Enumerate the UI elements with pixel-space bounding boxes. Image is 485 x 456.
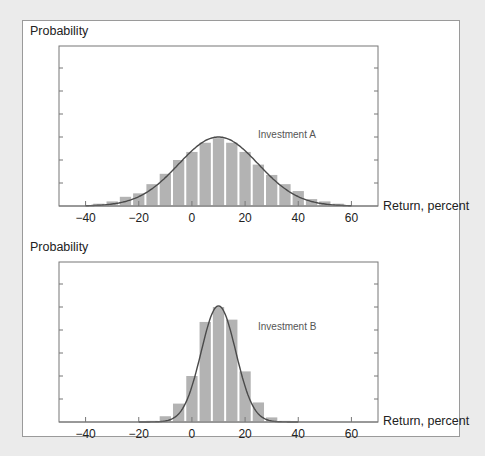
bar [146,184,157,206]
x-tick-label: 40 [292,211,306,225]
x-tick-label: 60 [345,211,359,225]
bar [160,174,171,206]
x-tick-label: 20 [238,427,252,441]
bar [213,138,224,206]
bar [253,165,264,206]
x-tick-label: −20 [129,427,150,441]
bar [253,402,264,422]
x-tick-label: −40 [75,211,96,225]
x-tick-label: 60 [345,427,359,441]
chart-investment-a: −40−200204060Investment A [59,46,378,225]
x-tick-label: 40 [292,427,306,441]
series-annotation: Investment A [258,129,316,140]
charts-canvas: −40−200204060Investment A −40−200204060I… [0,0,485,456]
bar [226,143,237,206]
bar [266,175,277,206]
bar [173,160,184,206]
x-tick-label: 20 [238,211,252,225]
x-tick-label: 0 [189,427,196,441]
bar [213,307,224,422]
bar [239,152,250,206]
bar [279,184,290,206]
bar [173,404,184,422]
x-tick-label: 0 [189,211,196,225]
x-tick-label: −20 [129,211,150,225]
bar [186,152,197,206]
bar [200,143,211,206]
series-annotation: Investment B [258,321,317,332]
x-tick-label: −40 [75,427,96,441]
chart-investment-b: −40−200204060Investment B [59,262,378,441]
